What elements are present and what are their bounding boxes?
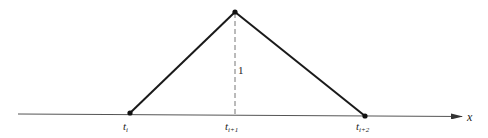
knot-label-ti2: ti+2 — [356, 120, 370, 134]
hat-function-diagram: 1 x ti ti+1 ti+2 — [0, 0, 488, 138]
hat-right-leg — [235, 12, 365, 116]
knot-label-ti: ti — [123, 120, 128, 134]
knot-point-ti — [127, 110, 132, 115]
knot-label-ti1: ti+1 — [225, 120, 238, 134]
knot-point-ti2 — [362, 113, 367, 118]
height-label: 1 — [238, 64, 244, 76]
hat-left-leg — [130, 12, 235, 113]
x-axis — [18, 114, 462, 117]
apex-point — [232, 9, 237, 14]
x-axis-label: x — [466, 110, 473, 124]
